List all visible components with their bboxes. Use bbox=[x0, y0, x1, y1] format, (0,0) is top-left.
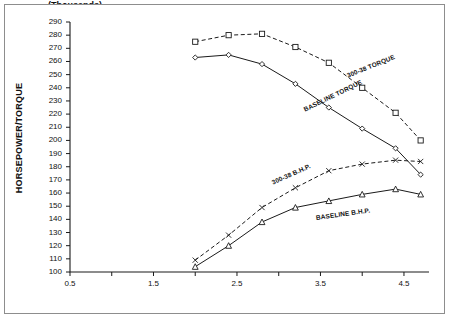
series-3 bbox=[192, 186, 423, 269]
series-0 bbox=[193, 31, 424, 143]
y-tick-label: 130 bbox=[40, 228, 62, 237]
y-tick-label: 270 bbox=[40, 43, 62, 52]
y-tick-label: 100 bbox=[40, 267, 62, 276]
x-tick-label: 2.5 bbox=[222, 279, 252, 288]
y-tick-label: 230 bbox=[40, 96, 62, 105]
y-tick-label: 240 bbox=[40, 83, 62, 92]
y-tick-label: 220 bbox=[40, 109, 62, 118]
x-tick-label: 0.5 bbox=[55, 279, 85, 288]
y-tick-label: 180 bbox=[40, 162, 62, 171]
y-tick-label: 150 bbox=[40, 201, 62, 210]
y-tick-label: 170 bbox=[40, 175, 62, 184]
y-tick-label: 250 bbox=[40, 70, 62, 79]
y-tick-label: 110 bbox=[40, 254, 62, 263]
y-tick-label: 140 bbox=[40, 214, 62, 223]
y-tick-label: 290 bbox=[40, 17, 62, 26]
y-tick-label: 280 bbox=[40, 30, 62, 39]
y-tick-label: 200 bbox=[40, 135, 62, 144]
y-tick-label: 260 bbox=[40, 56, 62, 65]
x-tick-label: 3.5 bbox=[305, 279, 335, 288]
x-tick-label: 1.5 bbox=[138, 279, 168, 288]
y-tick-label: 160 bbox=[40, 188, 62, 197]
y-tick-label: 210 bbox=[40, 122, 62, 131]
x-tick-label: 4.5 bbox=[389, 279, 419, 288]
y-tick-label: 190 bbox=[40, 149, 62, 158]
y-tick-label: 120 bbox=[40, 241, 62, 250]
chart-plot bbox=[0, 0, 451, 320]
series-1 bbox=[193, 52, 424, 177]
